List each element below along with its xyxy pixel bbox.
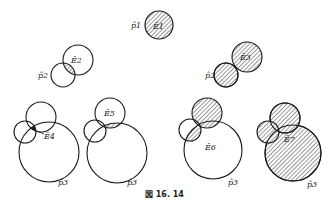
label-e1: Ê1 [152, 22, 164, 31]
label-e3: Ê3 [239, 53, 251, 62]
label-e2: Ê2 [70, 56, 82, 65]
figure-diagram: p̂1 Ê1 p̂2 Ê2 p̂2 Ê3 Ê4 p̂3 Ê5 p̂3 [0, 0, 330, 202]
label-p3d: p̂3 [307, 180, 317, 189]
panel-e6: Ê6 p̂3 [179, 98, 242, 187]
label-p3a: p̂3 [58, 178, 68, 187]
label-p1: p̂1 [131, 21, 141, 30]
panel-e7: Ê7 p̂3 [257, 103, 321, 189]
panel-e3: p̂2 Ê3 [205, 42, 262, 87]
panel-p1: p̂1 Ê1 [131, 11, 173, 39]
panel-e4: Ê4 p̂3 [14, 102, 79, 187]
label-p3b: p̂3 [127, 178, 137, 187]
label-e4: Ê4 [43, 132, 55, 141]
figure-caption: 図 16. 14 [145, 190, 184, 199]
label-p2: p̂2 [38, 71, 48, 80]
label-p3c: p̂3 [228, 178, 238, 187]
panel-e2: p̂2 Ê2 [38, 45, 93, 87]
label-p2b: p̂2 [205, 71, 215, 80]
label-e6: Ê6 [204, 143, 216, 152]
label-e5: Ê5 [103, 109, 115, 118]
panel-e5: Ê5 p̂3 [84, 98, 147, 187]
label-e7: Ê7 [283, 135, 296, 144]
